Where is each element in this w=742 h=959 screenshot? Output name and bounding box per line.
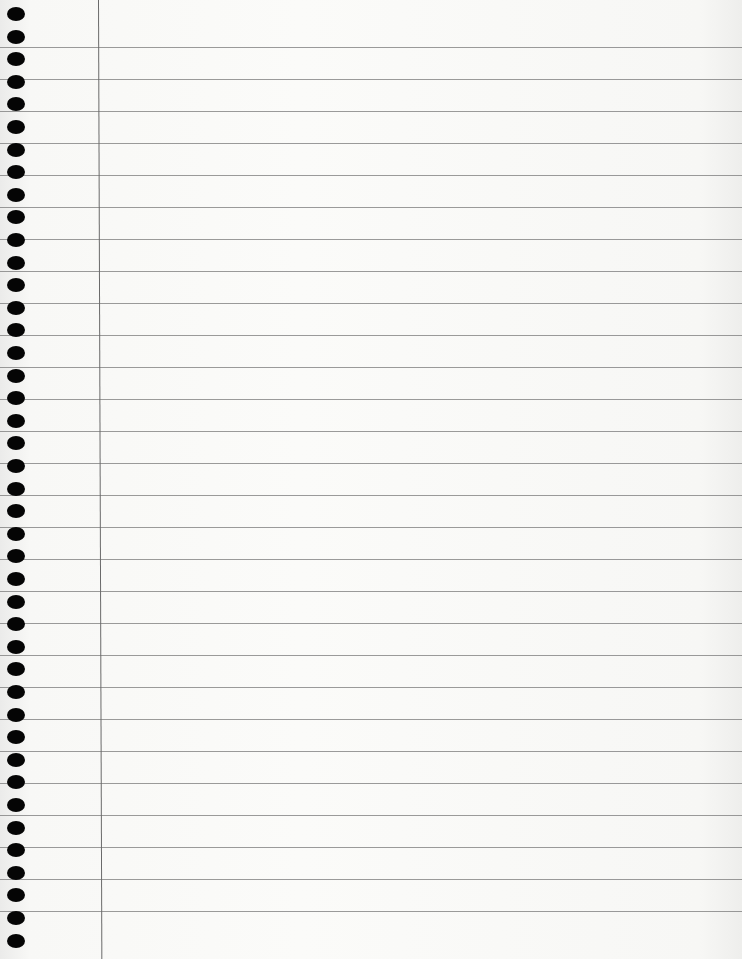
spiral-hole-icon (7, 52, 25, 66)
spiral-hole-icon (7, 323, 25, 337)
spiral-hole-icon (7, 120, 25, 134)
spiral-hole-icon (7, 391, 25, 405)
spiral-hole-icon (7, 798, 25, 812)
ruled-line (0, 815, 742, 816)
spiral-hole-icon (7, 911, 25, 925)
ruled-line (0, 239, 742, 240)
spiral-hole-icon (7, 7, 25, 21)
spiral-hole-icon (7, 188, 25, 202)
spiral-hole-icon (7, 708, 25, 722)
spiral-hole-icon (7, 97, 25, 111)
ruled-line (0, 559, 742, 560)
ruled-line (0, 879, 742, 880)
ruled-line (0, 47, 742, 48)
ruled-line (0, 143, 742, 144)
spiral-hole-icon (7, 775, 25, 789)
spiral-hole-icon (7, 934, 25, 948)
spiral-hole-icon (7, 843, 25, 857)
spiral-hole-icon (7, 165, 25, 179)
spiral-hole-icon (7, 256, 25, 270)
ruled-line (0, 335, 742, 336)
spiral-hole-icon (7, 549, 25, 563)
ruled-line (0, 463, 742, 464)
ruled-line (0, 303, 742, 304)
ruled-line (0, 431, 742, 432)
ruled-line (0, 111, 742, 112)
spiral-hole-icon (7, 504, 25, 518)
spiral-hole-icon (7, 482, 25, 496)
ruled-line (0, 399, 742, 400)
ruled-line (0, 687, 742, 688)
spiral-hole-icon (7, 753, 25, 767)
ruled-line (0, 79, 742, 80)
spiral-hole-icon (7, 617, 25, 631)
spiral-hole-icon (7, 143, 25, 157)
ruled-line (0, 751, 742, 752)
spiral-hole-icon (7, 866, 25, 880)
spiral-hole-icon (7, 685, 25, 699)
spiral-hole-icon (7, 414, 25, 428)
spiral-hole-icon (7, 233, 25, 247)
ruled-line (0, 175, 742, 176)
spiral-hole-icon (7, 75, 25, 89)
spiral-hole-icon (7, 459, 25, 473)
spiral-hole-icon (7, 572, 25, 586)
ruled-line (0, 367, 742, 368)
ruled-line (0, 655, 742, 656)
spiral-hole-icon (7, 210, 25, 224)
ruled-line (0, 911, 742, 912)
spiral-hole-icon (7, 436, 25, 450)
spiral-hole-icon (7, 278, 25, 292)
spiral-hole-icon (7, 301, 25, 315)
ruled-line (0, 495, 742, 496)
spiral-hole-icon (7, 527, 25, 541)
ruled-line (0, 719, 742, 720)
notebook-paper (0, 0, 742, 959)
ruled-line (0, 207, 742, 208)
spiral-hole-icon (7, 888, 25, 902)
ruled-line (0, 527, 742, 528)
spiral-hole-icon (7, 730, 25, 744)
spiral-hole-icon (7, 640, 25, 654)
ruled-line (0, 271, 742, 272)
spiral-hole-icon (7, 30, 25, 44)
spiral-hole-icon (7, 369, 25, 383)
spiral-hole-icon (7, 821, 25, 835)
spiral-hole-icon (7, 595, 25, 609)
ruled-line (0, 623, 742, 624)
ruled-line (0, 591, 742, 592)
ruled-line (0, 783, 742, 784)
spiral-hole-icon (7, 346, 25, 360)
spiral-hole-icon (7, 662, 25, 676)
ruled-line (0, 847, 742, 848)
